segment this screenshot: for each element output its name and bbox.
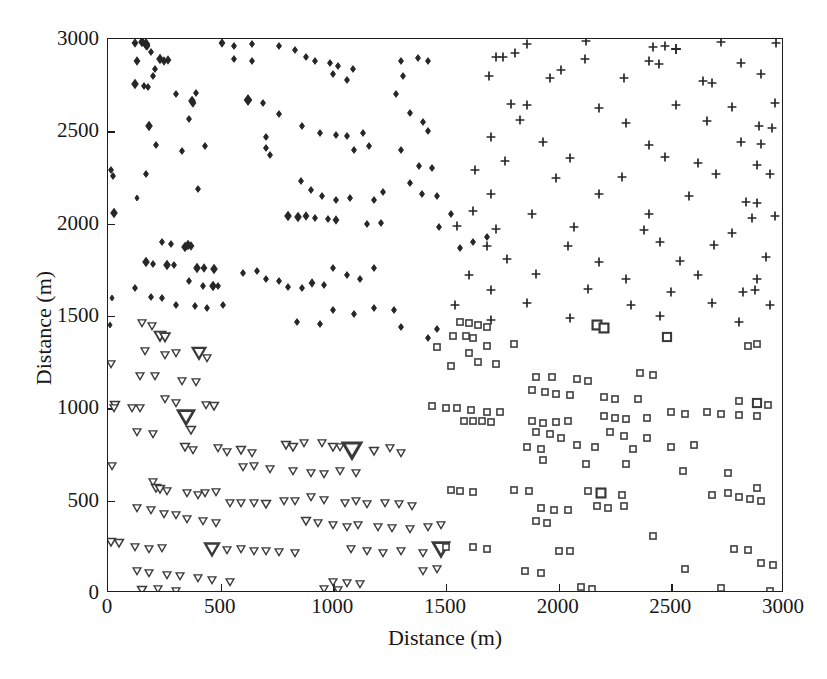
data-point-triangle-down — [223, 546, 231, 554]
data-point-triangle-down — [352, 469, 360, 477]
data-point-triangle-down — [397, 547, 405, 555]
data-point-triangle-down — [201, 489, 209, 497]
y-tick-label: 1500 — [57, 305, 99, 326]
data-point-triangle-down — [347, 545, 355, 553]
data-point-square — [599, 411, 608, 420]
data-point-diamond — [189, 99, 197, 107]
data-point-triangle-down — [388, 524, 396, 532]
data-point-square — [538, 419, 547, 428]
data-point-plus — [626, 300, 635, 309]
data-point-square — [446, 361, 455, 370]
data-point-diamond — [379, 189, 386, 196]
data-point-diamond — [164, 56, 172, 64]
data-point-square — [649, 371, 658, 380]
data-point-plus — [728, 228, 737, 237]
data-point-diamond — [424, 335, 431, 342]
data-point-plus — [580, 55, 589, 64]
data-point-triangle-down — [237, 499, 245, 507]
data-point-square — [473, 321, 482, 330]
data-point-square — [496, 408, 505, 417]
data-point-diamond — [218, 39, 226, 47]
data-point-triangle-down — [356, 580, 364, 588]
y-tick-label: 0 — [89, 582, 100, 603]
data-point-square — [527, 385, 536, 394]
data-point-triangle-down — [307, 493, 315, 501]
data-point-triangle-down — [147, 506, 155, 514]
data-point-square — [453, 404, 462, 413]
data-point-triangle-down — [145, 545, 153, 553]
data-point-diamond — [180, 242, 189, 251]
data-point-square — [734, 492, 743, 501]
data-point-plus — [772, 39, 781, 47]
data-point-diamond — [470, 239, 477, 246]
data-point-plus — [453, 221, 462, 230]
data-point-plus — [527, 210, 536, 219]
data-point-diamond — [147, 293, 154, 300]
data-point-diamond — [316, 130, 323, 137]
data-point-plus — [770, 212, 779, 221]
data-point-triangle-down — [280, 497, 288, 505]
data-point-diamond — [262, 276, 269, 283]
data-point-diamond — [204, 304, 211, 311]
data-point-triangle-down — [433, 541, 449, 557]
data-point-diamond — [370, 196, 377, 203]
data-point-diamond — [260, 99, 267, 106]
data-point-square — [509, 485, 518, 494]
data-point-plus — [491, 53, 500, 62]
data-point-plus — [570, 223, 579, 232]
data-point-plus — [487, 315, 496, 324]
data-point-plus — [622, 119, 631, 128]
data-point-square — [590, 319, 603, 332]
data-point-square — [703, 408, 712, 417]
data-point-diamond — [433, 192, 440, 199]
data-point-square — [565, 547, 574, 556]
data-point-plus — [752, 199, 761, 208]
data-point-triangle-down — [363, 500, 371, 508]
data-point-square — [455, 317, 464, 326]
data-point-triangle-down — [131, 543, 139, 551]
data-point-square — [689, 441, 698, 450]
data-point-diamond — [109, 172, 116, 179]
data-point-diamond — [433, 325, 440, 332]
data-point-triangle-down — [160, 332, 170, 342]
data-point-triangle-down — [183, 489, 191, 497]
data-point-plus — [523, 39, 532, 48]
data-point-diamond — [168, 240, 175, 247]
data-point-diamond — [187, 242, 195, 250]
data-point-square — [680, 409, 689, 418]
data-point-diamond — [436, 224, 443, 231]
data-point-plus — [499, 53, 508, 62]
data-point-triangle-down — [302, 516, 311, 525]
data-point-triangle-down — [172, 587, 180, 591]
data-point-diamond — [209, 264, 218, 273]
data-point-square — [649, 531, 658, 540]
data-point-diamond — [195, 185, 202, 192]
data-point-plus — [545, 73, 554, 82]
data-point-triangle-down — [189, 446, 197, 454]
data-point-square — [572, 441, 581, 450]
data-point-triangle-down — [408, 502, 416, 510]
data-point-diamond — [141, 39, 151, 49]
data-point-square — [552, 389, 561, 398]
data-point-triangle-down — [236, 445, 245, 454]
data-point-diamond — [231, 56, 238, 63]
data-point-square — [442, 404, 451, 413]
data-point-diamond — [187, 96, 196, 105]
data-point-diamond — [243, 95, 253, 105]
data-point-diamond — [350, 146, 357, 153]
data-point-triangle-down — [203, 354, 211, 362]
data-point-triangle-down — [145, 569, 153, 577]
data-point-triangle-down — [250, 462, 258, 470]
data-point-triangle-down — [110, 400, 119, 409]
data-point-square — [766, 587, 775, 591]
data-point-diamond — [133, 57, 141, 65]
data-point-diamond — [275, 43, 282, 50]
data-point-diamond — [359, 130, 366, 137]
data-point-diamond — [171, 262, 178, 269]
data-point-plus — [757, 140, 766, 149]
data-point-triangle-down — [187, 426, 196, 435]
data-point-diamond — [456, 244, 463, 251]
data-point-plus — [750, 286, 759, 295]
data-point-triangle-down — [212, 519, 220, 527]
data-point-triangle-down — [336, 467, 344, 475]
